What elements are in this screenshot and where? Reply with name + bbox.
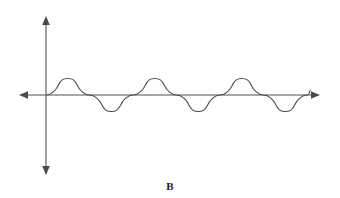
y-axis-down-arrowhead-icon (42, 166, 50, 175)
wave-diagram-canvas (0, 0, 340, 198)
y-axis-up-arrowhead-icon (42, 16, 50, 25)
x-axis-left-arrowhead-icon (19, 91, 28, 99)
figure-caption-label: B (0, 180, 340, 192)
x-axis-right-arrowhead-icon (311, 91, 320, 99)
wave-diagram-figure: B (0, 0, 340, 198)
